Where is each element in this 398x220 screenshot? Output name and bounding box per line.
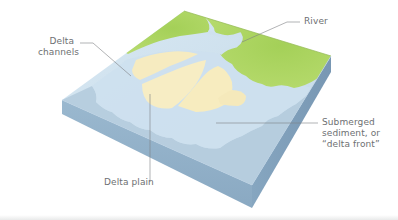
delta-diagram: Delta channels River Submerged sediment,… [0, 0, 398, 220]
label-delta-channels-line2: channels [38, 47, 79, 58]
label-line: channels [38, 47, 79, 58]
bottom-divider [0, 215, 398, 220]
label-river: River [304, 16, 328, 27]
label-line: “delta front” [322, 139, 380, 150]
label-line: Delta [38, 36, 74, 47]
label-line: Submerged [322, 117, 380, 128]
label-delta-channels: Delta [38, 36, 74, 47]
label-submerged-sediment: Submerged sediment, or “delta front” [322, 117, 380, 150]
label-line: sediment, or [322, 128, 380, 139]
block-diagram-graphic [0, 0, 398, 220]
label-delta-plain: Delta plain [104, 177, 154, 188]
